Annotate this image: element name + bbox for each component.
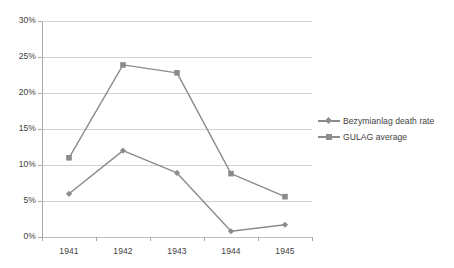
y-axis-labels: 0%5%10%15%20%25%30%	[0, 0, 36, 268]
x-tick-label: 1944	[204, 246, 258, 256]
line-chart: 0%5%10%15%20%25%30% 19411942194319441945…	[0, 0, 454, 268]
legend-item-bezymianlag[interactable]: Bezymianlag death rate	[318, 114, 450, 128]
legend-item-label: GULAG average	[343, 132, 407, 142]
y-tick-label: 30%	[2, 16, 36, 25]
legend-diamond-marker-icon	[318, 116, 340, 126]
data-point-diamond-marker	[282, 222, 288, 228]
x-tick-label: 1945	[258, 246, 312, 256]
y-tick-mark	[38, 57, 42, 58]
gridline	[42, 237, 312, 238]
data-point-square-marker	[228, 171, 234, 177]
y-tick-label: 25%	[2, 52, 36, 61]
y-tick-mark	[38, 237, 42, 238]
x-tick-mark	[204, 237, 205, 241]
y-tick-mark	[38, 21, 42, 22]
y-tick-mark	[38, 201, 42, 202]
x-tick-mark	[258, 237, 259, 241]
x-tick-label: 1943	[150, 246, 204, 256]
x-tick-mark	[96, 237, 97, 241]
legend-item-gulag-average[interactable]: GULAG average	[318, 130, 450, 144]
series-line	[69, 65, 285, 197]
y-tick-mark	[38, 165, 42, 166]
y-tick-label: 15%	[2, 124, 36, 133]
x-tick-label: 1941	[42, 246, 96, 256]
y-tick-label: 0%	[2, 232, 36, 241]
series-line	[69, 151, 285, 232]
legend-square-marker-icon	[318, 132, 340, 142]
chart-legend: Bezymianlag death rate GULAG average	[318, 114, 450, 146]
x-tick-mark	[42, 237, 43, 241]
y-tick-label: 20%	[2, 88, 36, 97]
data-point-square-marker	[120, 62, 126, 68]
x-tick-label: 1942	[96, 246, 150, 256]
series-1	[66, 148, 288, 235]
y-tick-label: 10%	[2, 160, 36, 169]
y-tick-mark	[38, 93, 42, 94]
data-point-square-marker	[66, 155, 72, 161]
series-layer	[42, 21, 312, 237]
data-point-square-marker	[174, 70, 180, 76]
x-tick-mark	[312, 237, 313, 241]
y-tick-label: 5%	[2, 196, 36, 205]
series-2	[66, 62, 288, 199]
plot-area	[42, 21, 312, 237]
x-tick-mark	[150, 237, 151, 241]
data-point-square-marker	[282, 194, 288, 200]
y-tick-mark	[38, 129, 42, 130]
legend-item-label: Bezymianlag death rate	[343, 116, 434, 126]
